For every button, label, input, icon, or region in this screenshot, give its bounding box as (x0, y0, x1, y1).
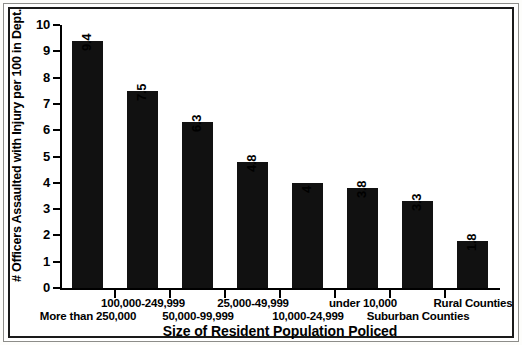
bar (182, 122, 213, 288)
y-tick-label: 7 (28, 99, 50, 109)
bar-value-label: 1.8 (464, 234, 479, 251)
bar-value-label: 6.3 (189, 115, 204, 132)
bar-value-label: 3.3 (409, 194, 424, 211)
bar-chart-plot-area: 012345678910 9.47.56.34.843.83.31.8 More… (0, 0, 522, 345)
bar (292, 183, 323, 288)
y-tick-mark (53, 156, 60, 158)
y-tick-mark (53, 103, 60, 105)
y-tick-label: 4 (28, 178, 50, 188)
y-tick-label: 5 (28, 152, 50, 162)
x-category-label: Rural Counties (373, 297, 522, 309)
y-tick-mark (53, 50, 60, 52)
y-tick-label: 8 (28, 73, 50, 83)
bar (127, 91, 158, 288)
y-tick-mark (53, 24, 60, 26)
bar (237, 162, 268, 288)
y-tick-label: 0 (28, 283, 50, 293)
bar (402, 201, 433, 288)
y-tick-label: 2 (28, 230, 50, 240)
y-tick-mark (53, 129, 60, 131)
y-tick-mark (53, 287, 60, 289)
y-tick-label: 9 (28, 46, 50, 56)
bar (72, 41, 103, 288)
y-tick-label: 3 (28, 204, 50, 214)
bar-value-label: 9.4 (79, 34, 94, 51)
figure-frame: 012345678910 9.47.56.34.843.83.31.8 More… (0, 0, 522, 345)
y-tick-label: 10 (28, 20, 50, 30)
y-tick-mark (53, 234, 60, 236)
y-tick-label: 6 (28, 125, 50, 135)
bar-value-label: 7.5 (134, 84, 149, 101)
y-tick-label: 1 (28, 257, 50, 267)
bar-value-label: 4 (299, 186, 314, 193)
y-tick-mark (53, 261, 60, 263)
bar-value-label: 4.8 (244, 155, 259, 172)
y-axis-title: # Officers Assaulted with Injury per 100… (10, 12, 24, 282)
y-tick-mark (53, 182, 60, 184)
x-axis-title: Size of Resident Population Policed (60, 323, 500, 339)
bar (347, 188, 378, 288)
bar-value-label: 3.8 (354, 181, 369, 198)
y-axis-line (60, 25, 62, 289)
x-category-label: Suburban Counties (318, 310, 518, 322)
y-tick-mark (53, 208, 60, 210)
y-tick-mark (53, 77, 60, 79)
